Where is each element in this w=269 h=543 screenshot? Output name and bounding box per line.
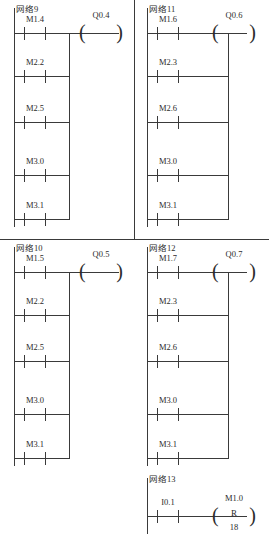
- rung-wire-net12-3: [147, 361, 229, 362]
- ladder-diagram-sheet: 网络9 M1.4 ( ) Q0.4 M2.2 M2.5: [0, 0, 269, 543]
- rung-wire-net10-4: [14, 414, 70, 415]
- contact-label-net10-4: M3.0: [26, 395, 44, 405]
- coil-net13-reset[interactable]: ( ) M1.0 R 18: [212, 507, 256, 527]
- contact-bar-right: [45, 309, 46, 322]
- contact-label-net9-5: M3.1: [26, 200, 44, 210]
- contact-bar-left: [24, 27, 25, 40]
- power-rail-net12: [147, 247, 148, 466]
- contact-label-net11-1: M1.6: [159, 14, 177, 24]
- rung-wire-net12-2: [147, 315, 229, 316]
- power-rail-net13: [147, 478, 148, 534]
- branch-collector-net12: [228, 272, 229, 458]
- contact-bar-right: [45, 408, 46, 421]
- contact-bar-right: [178, 266, 179, 279]
- contact-bar-left: [24, 408, 25, 421]
- power-rail-net10: [14, 247, 15, 466]
- contact-bar-left: [157, 169, 158, 182]
- quadrant-vertical-divider-top: [134, 0, 135, 239]
- contact-bar-right: [178, 309, 179, 322]
- contact-bar-right: [45, 70, 46, 83]
- contact-label-net10-2: M2.2: [26, 296, 44, 306]
- contact-bar-right: [45, 27, 46, 40]
- contact-bar-right: [178, 510, 179, 523]
- coil-paren-right: ): [249, 24, 256, 40]
- rung-wire-net9-3: [14, 122, 70, 123]
- contact-bar-left: [157, 408, 158, 421]
- rung-wire-net9-5: [14, 219, 70, 220]
- contact-bar-left: [24, 213, 25, 226]
- coil-net10[interactable]: ( ) Q0.5: [79, 263, 123, 283]
- network-label-net11: 网络11: [149, 4, 175, 14]
- coil-net12[interactable]: ( ) Q0.7: [212, 263, 256, 283]
- coil-paren-right: ): [249, 507, 256, 523]
- contact-bar-right: [178, 213, 179, 226]
- branch-collector-net9: [69, 33, 70, 219]
- contact-bar-right: [178, 452, 179, 465]
- coil-label-net10: Q0.5: [93, 249, 110, 259]
- contact-bar-left: [157, 27, 158, 40]
- rung-wire-net10-2: [14, 315, 70, 316]
- contact-bar-left: [157, 510, 158, 523]
- coil-paren-left: (: [212, 24, 219, 40]
- contact-bar-left: [24, 70, 25, 83]
- rung-wire-net9-2: [14, 76, 70, 77]
- coil-paren-left: (: [212, 507, 219, 523]
- contact-label-net12-3: M2.6: [159, 342, 177, 352]
- contact-label-net10-3: M2.5: [26, 342, 44, 352]
- network-label-net10: 网络10: [16, 243, 43, 253]
- contact-bar-right: [178, 408, 179, 421]
- contact-bar-right: [45, 169, 46, 182]
- coil-reset-count: 18: [230, 522, 239, 532]
- power-rail-net11: [147, 8, 148, 227]
- contact-label-net10-5: M3.1: [26, 439, 44, 449]
- network-label-net12: 网络12: [149, 243, 176, 253]
- contact-bar-left: [24, 116, 25, 129]
- contact-bar-left: [157, 266, 158, 279]
- contact-label-net10-1: M1.5: [26, 253, 44, 263]
- contact-bar-left: [24, 452, 25, 465]
- contact-bar-right: [178, 70, 179, 83]
- contact-label-net9-3: M2.5: [26, 103, 44, 113]
- coil-paren-right: ): [116, 24, 123, 40]
- contact-bar-right: [178, 116, 179, 129]
- rung-wire-net11-2: [147, 76, 229, 77]
- quadrant-horizontal-divider: [0, 239, 269, 240]
- contact-label-net11-5: M3.1: [159, 200, 177, 210]
- contact-bar-left: [157, 309, 158, 322]
- rung-wire-net12-4: [147, 414, 229, 415]
- contact-bar-right: [45, 355, 46, 368]
- rung-wire-net10-5: [14, 458, 70, 459]
- branch-collector-net10: [69, 272, 70, 458]
- contact-label-net11-4: M3.0: [159, 156, 177, 166]
- coil-label-net9: Q0.4: [93, 10, 110, 20]
- contact-bar-left: [24, 355, 25, 368]
- contact-bar-left: [157, 213, 158, 226]
- contact-bar-right: [178, 355, 179, 368]
- contact-bar-right: [45, 213, 46, 226]
- coil-paren-right: ): [116, 263, 123, 279]
- coil-label-net11: Q0.6: [226, 10, 243, 20]
- network-label-net9: 网络9: [16, 4, 38, 14]
- contact-bar-right: [45, 452, 46, 465]
- coil-paren-left: (: [79, 263, 86, 279]
- rung-wire-net9-4: [14, 175, 70, 176]
- network-label-net13: 网络13: [149, 474, 176, 484]
- contact-bar-left: [24, 309, 25, 322]
- contact-label-net11-2: M2.3: [159, 57, 177, 67]
- coil-paren-right: ): [249, 263, 256, 279]
- coil-label-net13: M1.0: [225, 493, 243, 503]
- contact-bar-left: [24, 266, 25, 279]
- rung-wire-net11-5: [147, 219, 229, 220]
- coil-label-net12: Q0.7: [226, 249, 243, 259]
- contact-bar-right: [178, 27, 179, 40]
- coil-paren-left: (: [79, 24, 86, 40]
- contact-bar-left: [157, 70, 158, 83]
- coil-net9[interactable]: ( ) Q0.4: [79, 24, 123, 44]
- branch-collector-net11: [228, 33, 229, 219]
- contact-label-net12-4: M3.0: [159, 395, 177, 405]
- coil-reset-letter: R: [231, 508, 237, 519]
- coil-net11[interactable]: ( ) Q0.6: [212, 24, 256, 44]
- contact-label-net9-2: M2.2: [26, 57, 44, 67]
- contact-bar-left: [157, 116, 158, 129]
- rung-wire-net11-4: [147, 175, 229, 176]
